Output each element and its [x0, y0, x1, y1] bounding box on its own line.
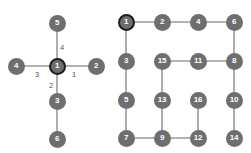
graph-node-4[interactable]: 4 [190, 14, 207, 31]
diagram-canvas: 123456123412463151185131610791214 [0, 0, 251, 153]
graph-node-2[interactable]: 2 [154, 14, 171, 31]
graph-node-14[interactable]: 14 [226, 130, 243, 147]
graph-node-9[interactable]: 9 [154, 130, 171, 147]
graph-node-13[interactable]: 13 [154, 92, 171, 109]
graph-node-16[interactable]: 16 [190, 92, 207, 109]
graph-node-15[interactable]: 15 [154, 53, 171, 70]
graph-node-12[interactable]: 12 [190, 130, 207, 147]
graph-node-5[interactable]: 5 [118, 92, 135, 109]
graph-node-8[interactable]: 8 [226, 53, 243, 70]
graph-node-11[interactable]: 11 [190, 53, 207, 70]
graph-node-10[interactable]: 10 [226, 92, 243, 109]
graph-node-7[interactable]: 7 [118, 130, 135, 147]
graph-node-3[interactable]: 3 [118, 53, 135, 70]
grid-graph: 12463151185131610791214 [0, 0, 251, 153]
graph-node-6[interactable]: 6 [226, 14, 243, 31]
graph-node-1[interactable]: 1 [118, 14, 135, 31]
